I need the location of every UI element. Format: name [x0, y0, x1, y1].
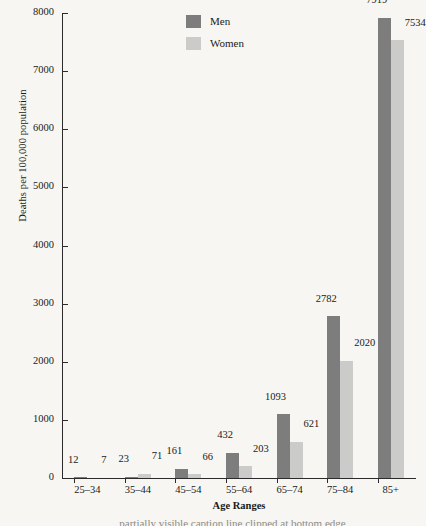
bar-value-label: 7534	[405, 17, 426, 28]
bar-value-label: 432	[217, 430, 233, 441]
legend-label: Men	[210, 15, 230, 27]
bar-value-label: 23	[119, 454, 130, 465]
legend-swatch-women	[186, 37, 201, 50]
bar-group: 2371	[125, 13, 151, 478]
bar-men	[277, 414, 290, 478]
x-tick-mark	[226, 478, 227, 483]
bar-value-label: 7919	[366, 0, 387, 5]
bar-value-label: 203	[253, 443, 269, 454]
bar-value-label: 66	[202, 451, 213, 462]
x-tick-mark	[175, 478, 176, 483]
bar-men	[226, 453, 239, 478]
y-tick-label: 7000	[2, 64, 62, 75]
legend-item: Women	[186, 32, 244, 54]
bar-men	[327, 316, 340, 478]
legend-label: Women	[210, 37, 244, 49]
y-tick-label: 3000	[2, 297, 62, 308]
y-tick-label: 2000	[2, 355, 62, 366]
y-tick-label: 4000	[2, 239, 62, 250]
x-tick-mark	[327, 478, 328, 483]
bar-women	[239, 466, 252, 478]
bar-value-label: 2020	[354, 338, 375, 349]
legend-swatch-men	[186, 15, 201, 28]
bar-group: 1093621	[277, 13, 303, 478]
x-tick-mark	[277, 478, 278, 483]
x-tick-mark	[125, 478, 126, 483]
x-tick-mark	[74, 478, 75, 483]
y-tick-label: 1000	[2, 413, 62, 424]
plot-area: 1272371161664322031093621278220207919753…	[62, 13, 416, 478]
x-tick-mark	[378, 478, 379, 483]
legend-item: Men	[186, 10, 244, 32]
bar-value-label: 1093	[265, 391, 286, 402]
bar-value-label: 621	[304, 419, 320, 430]
x-tick-label: 85+	[356, 484, 426, 495]
y-tick-label: 0	[2, 471, 62, 482]
bar-value-label: 12	[68, 454, 79, 465]
bar-women	[290, 442, 303, 478]
bar-women	[391, 40, 404, 478]
bar-men	[175, 469, 188, 478]
y-tick-label: 6000	[2, 122, 62, 133]
bar-women	[340, 361, 353, 478]
chart-legend: MenWomen	[186, 10, 244, 54]
bar-value-label: 71	[152, 451, 163, 462]
x-axis-line	[62, 478, 416, 479]
bar-value-label: 2782	[316, 293, 337, 304]
bar-value-label: 161	[167, 446, 183, 457]
y-tick-label: 8000	[2, 6, 62, 17]
bar-group: 16166	[175, 13, 201, 478]
bar-group: 27822020	[327, 13, 353, 478]
x-axis-title: Age Ranges	[62, 500, 416, 511]
bar-men	[378, 18, 391, 478]
clipped-caption: partially visible caption line clipped a…	[40, 517, 425, 526]
bar-group: 432203	[226, 13, 252, 478]
bar-value-label: 7	[101, 455, 106, 466]
bar-group: 79197534	[378, 13, 404, 478]
y-tick-label: 5000	[2, 180, 62, 191]
bar-group: 127	[74, 13, 100, 478]
